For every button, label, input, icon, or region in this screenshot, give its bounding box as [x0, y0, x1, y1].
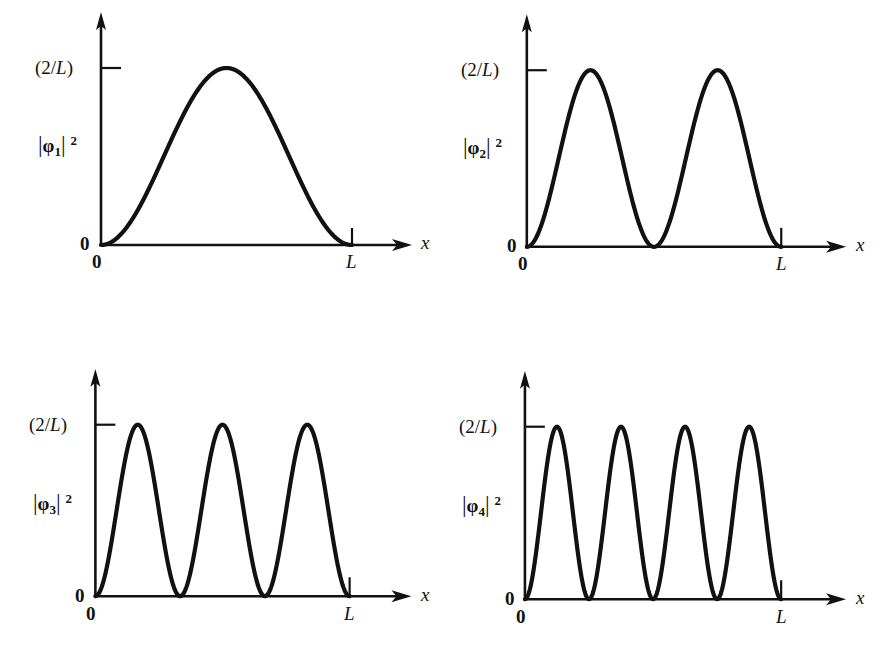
- x-axis-L-label: L: [344, 604, 355, 623]
- x-axis-L-label: L: [346, 252, 357, 271]
- x-axis-variable-label: x: [421, 585, 429, 604]
- curve-density-n4: [525, 427, 781, 599]
- y-axis-zero-label: 0: [75, 586, 85, 605]
- y-axis-label-phi4-squared: |φ4|2: [462, 493, 501, 518]
- y-axis-tick-label-2overL: (2/L): [35, 58, 73, 77]
- x-axis-zero-label: 0: [516, 607, 526, 626]
- x-axis-zero-label: 0: [518, 254, 528, 273]
- y-axis-label-phi2-squared: |φ2|2: [463, 135, 502, 160]
- y-axis-tick-label-2overL: (2/L): [29, 415, 67, 434]
- x-axis-L-label: L: [776, 254, 787, 273]
- panel-n4-plot: [445, 331, 890, 662]
- curve-density-n2: [527, 70, 781, 247]
- panel-n2: (2/L) |φ2|2 0 0 L x: [445, 0, 890, 331]
- y-axis-tick-label-2overL: (2/L): [461, 60, 499, 79]
- panel-n4: (2/L) |φ4|2 0 0 L x: [445, 331, 890, 662]
- x-axis-variable-label: x: [856, 235, 864, 254]
- y-axis-zero-label: 0: [505, 589, 515, 608]
- x-axis-variable-label: x: [421, 233, 429, 252]
- panel-n2-plot: [445, 0, 890, 331]
- x-axis-variable-label: x: [856, 588, 864, 607]
- figure-probability-densities: (2/L) |φ1|2 0 0 L x (2/L) |φ2|2 0 0 L x: [0, 0, 891, 663]
- x-axis-L-label: L: [776, 607, 787, 626]
- x-axis-zero-label: 0: [92, 252, 102, 271]
- y-axis-tick-label-2overL: (2/L): [459, 417, 497, 436]
- panel-n1-plot: [0, 0, 445, 331]
- y-axis-zero-label: 0: [80, 234, 90, 253]
- y-axis-label-phi1-squared: |φ1|2: [38, 133, 77, 158]
- y-axis-zero-label: 0: [507, 236, 517, 255]
- y-axis-label-phi3-squared: |φ3|2: [33, 491, 72, 516]
- panel-n3: (2/L) |φ3|2 0 0 L x: [0, 331, 445, 662]
- panel-n1: (2/L) |φ1|2 0 0 L x: [0, 0, 445, 331]
- curve-density-n3: [95, 425, 349, 596]
- x-axis-zero-label: 0: [86, 604, 96, 623]
- curve-density-n1: [101, 68, 352, 245]
